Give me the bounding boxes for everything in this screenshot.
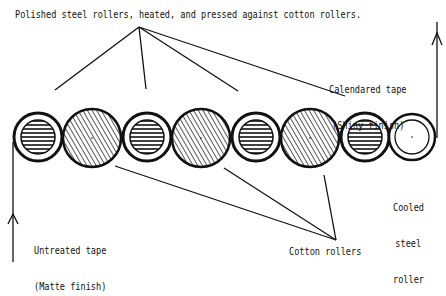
cooled-roller-line2: steel: [393, 238, 424, 250]
untreated-tape-line1: Untreated tape: [34, 245, 106, 257]
calendared-tape-line2: (Shiny finish): [329, 120, 406, 132]
tape-output-path: [432, 22, 442, 138]
cooled-roller-line3: roller: [393, 274, 424, 286]
steel-rollers-label: Polished steel rollers, heated, and pres…: [15, 9, 361, 21]
calendared-tape-line1: Calendared tape: [329, 84, 406, 96]
steel-roller-pointer-lines: [55, 27, 345, 96]
cotton-roller-pointer-lines: [115, 166, 336, 240]
cooled-roller-line1: Cooled: [393, 202, 424, 214]
roller-2-cotton: [63, 109, 121, 167]
cotton-rollers-label: Cotton rollers: [289, 246, 361, 258]
calendared-tape-label: Calendared tape (Shiny finish): [329, 60, 406, 144]
roller-3-heated-steel: [123, 113, 171, 161]
roller-5-heated-steel: [232, 113, 280, 161]
untreated-tape-line2: (Matte finish): [34, 281, 106, 293]
roller-4-cotton: [172, 109, 230, 167]
cooled-steel-roller-label: Cooled steel roller: [393, 178, 424, 296]
roller-1-heated-steel: [14, 113, 62, 161]
tape-input-path: [8, 142, 18, 262]
untreated-tape-label: Untreated tape (Matte finish): [34, 221, 106, 296]
